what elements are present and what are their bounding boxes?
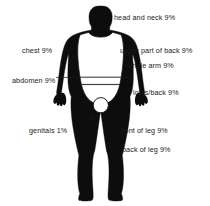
rule-of-nines-diagram: head and neck 9% chest 9% upper part of … (0, 0, 210, 206)
body-figure-illustration (0, 0, 210, 206)
genitals-circle-marker (93, 98, 108, 113)
label-whole-arm: whole arm 9% (127, 61, 174, 70)
label-upper-part-of-back: upper part of back 9% (120, 46, 192, 55)
label-abdomen: abdomen 9% (12, 76, 55, 85)
label-genitals: genitals 1% (29, 126, 67, 135)
label-head-and-neck: head and neck 9% (114, 13, 175, 22)
label-back-of-leg: back of leg 9% (122, 145, 171, 154)
label-loins-back: loins/back 9% (133, 88, 179, 97)
label-chest: chest 9% (22, 46, 52, 55)
label-front-of-leg: front of leg 9% (120, 126, 168, 135)
torso-panel (78, 32, 124, 84)
